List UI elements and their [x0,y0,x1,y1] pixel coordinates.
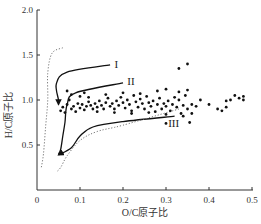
data-point [167,100,170,103]
data-point [145,95,148,98]
data-point [109,105,112,108]
y-tick-label: 1.0 [22,95,34,105]
data-point [178,91,181,94]
x-tick-label: 0.4 [203,195,215,205]
data-point [89,104,92,107]
data-point [147,101,150,104]
data-point [233,94,236,97]
data-point [130,109,133,112]
data-point [126,99,129,102]
data-point [96,106,99,109]
data-point [70,108,73,111]
data-point [186,108,189,111]
curve-label: III [168,117,179,129]
curve-boundary-upper [41,48,63,168]
data-point [152,100,155,103]
data-point [83,91,86,94]
data-point [102,108,105,111]
curve-label: I [114,58,118,70]
curve-iii [59,116,175,155]
data-point [165,113,168,116]
data-point [182,104,185,107]
data-point [150,105,153,108]
curve-boundary-lower [56,109,179,172]
data-point [186,89,189,92]
curve-ii [59,83,124,154]
ticks: 00.10.20.30.40.50.51.01.52.0 [22,5,258,205]
data-point [188,121,191,124]
data-point [169,109,172,112]
data-point [128,103,131,106]
data-point [92,108,95,111]
data-point [182,115,185,118]
data-point [175,106,178,109]
x-tick-label: 0 [35,195,40,205]
data-point [216,108,219,111]
x-tick-label: 0.2 [117,195,128,205]
data-point [221,109,224,112]
data-point [225,100,228,103]
data-point [107,97,110,100]
data-point [122,101,125,104]
data-point [156,103,159,106]
data-point [158,97,161,100]
data-point [122,91,125,94]
data-point [242,95,245,98]
data-point [87,100,90,103]
data-point [165,122,168,125]
data-point [113,111,116,114]
data-points [59,63,245,125]
data-point [130,112,133,115]
data-point [111,102,114,105]
data-point [79,95,82,98]
data-point [178,67,181,70]
data-point [225,106,228,109]
data-point [165,105,168,108]
x-tick-label: 0.3 [160,195,172,205]
data-point [208,103,211,106]
data-point [139,92,142,95]
data-point [154,110,157,113]
data-point [137,106,140,109]
data-point [195,105,198,108]
data-point [132,94,135,97]
data-point [124,107,127,110]
data-point [165,88,168,91]
data-point [143,108,146,111]
data-point [85,105,88,108]
y-tick-label: 1.5 [22,50,34,60]
curve-label: II [127,75,135,87]
data-point [76,102,79,105]
data-point [147,111,150,114]
data-point [64,111,67,114]
data-point [59,109,62,112]
data-point [242,99,245,102]
y-tick-label: 0.5 [22,140,34,150]
x-tick-label: 0.5 [246,195,258,205]
data-point [72,105,75,108]
data-point [141,102,144,105]
curve-i [56,65,110,105]
data-point [66,90,69,93]
data-point [115,100,118,103]
data-point [178,99,181,102]
x-tick-label: 0.1 [74,195,85,205]
data-point [81,103,84,106]
data-point [66,103,69,106]
data-point [68,99,71,102]
data-point [238,97,241,100]
data-point [119,96,122,99]
y-axis-title: H/C原子比 [3,92,14,139]
data-point [180,112,183,115]
data-point [117,104,120,107]
data-point [190,112,193,115]
data-point [156,90,159,93]
data-point [199,99,202,102]
x-axis-title: O/C原子比 [122,207,169,218]
data-point [61,106,64,109]
data-point [96,110,99,113]
data-point [100,104,103,107]
y-tick-label: 2.0 [22,5,34,15]
data-point [162,102,165,105]
data-point [98,100,101,103]
